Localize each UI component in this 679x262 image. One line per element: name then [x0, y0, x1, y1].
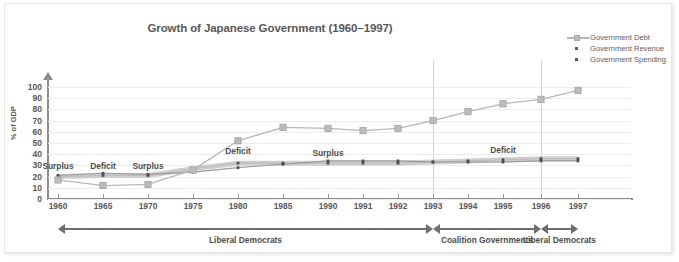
legend-item-label: Government Debt — [590, 32, 650, 43]
y-axis-tick-label: 50 — [20, 138, 42, 148]
era-bracket-left-arrow-icon — [58, 224, 65, 234]
data-point-marker — [147, 173, 150, 176]
legend-item-government-spending: Government Spending — [566, 54, 676, 65]
gridline — [48, 199, 631, 200]
chart-annotation-label: Surplus — [298, 148, 358, 158]
data-point-marker — [397, 160, 400, 163]
x-axis-tick-label: 1994 — [448, 201, 488, 211]
data-point-marker — [502, 161, 505, 164]
data-point-marker — [325, 125, 331, 131]
legend-item-label: Government Revenue — [590, 43, 664, 54]
dot-marker-icon — [566, 54, 590, 65]
x-axis-tick-label: 1997 — [558, 201, 598, 211]
data-point-marker — [432, 161, 435, 164]
x-axis-tick-label: 1980 — [218, 201, 258, 211]
data-point-marker — [100, 182, 106, 188]
x-axis-tick-label: 1992 — [378, 201, 418, 211]
era-bracket-bar — [64, 228, 427, 230]
legend-item-government-debt: Government Debt — [566, 32, 676, 43]
era-bracket-right-arrow-icon — [426, 224, 433, 234]
x-axis-tick — [363, 194, 364, 199]
era-bracket-bar — [547, 228, 572, 230]
data-point-marker — [237, 162, 240, 165]
x-axis-tick-label: 1960 — [38, 201, 78, 211]
chart-annotation-label: Surplus — [118, 161, 178, 171]
x-axis-tick — [193, 194, 194, 199]
data-point-marker — [395, 125, 401, 131]
x-axis-tick-label: 1985 — [263, 201, 303, 211]
data-point-marker — [55, 177, 61, 183]
era-bracket-label: Liberal Democrats — [166, 235, 326, 245]
y-axis-tick-label: 10 — [20, 183, 42, 193]
data-point-marker — [102, 172, 105, 175]
x-axis-tick — [433, 194, 434, 199]
data-point-marker — [577, 160, 580, 163]
y-axis-title: % of GDP — [9, 106, 18, 140]
x-axis-tick-label: 1993 — [413, 201, 453, 211]
line-square-marker-icon — [566, 32, 590, 43]
x-axis-tick — [503, 194, 504, 199]
chart-annotation-label: Deficit — [473, 145, 533, 155]
data-point-marker — [500, 101, 506, 107]
era-bracket-label: Liberal Democrats — [480, 235, 640, 245]
data-point-marker — [237, 166, 240, 169]
data-point-marker — [430, 118, 436, 124]
x-axis-tick — [238, 194, 239, 199]
data-point-marker — [145, 181, 151, 187]
x-axis-tick-label: 1965 — [83, 201, 123, 211]
y-axis-tick-label: 60 — [20, 127, 42, 137]
y-axis-tick-label: 20 — [20, 172, 42, 182]
data-point-marker — [280, 124, 286, 130]
x-axis-tick — [468, 194, 469, 199]
x-axis-tick — [398, 194, 399, 199]
era-bracket-right-arrow-icon — [534, 224, 541, 234]
x-axis-tick — [578, 194, 579, 199]
y-axis-tick-labels: 0102030405060708090100 — [18, 0, 42, 262]
x-axis-tick-label: 1991 — [343, 201, 383, 211]
x-axis-tick — [541, 194, 542, 199]
era-bracket-left-arrow-icon — [541, 224, 548, 234]
x-axis-tick — [328, 194, 329, 199]
data-point-marker — [190, 167, 196, 173]
data-point-marker — [282, 163, 285, 166]
chart-series-layer — [48, 87, 631, 199]
x-axis-tick-label: 1975 — [173, 201, 213, 211]
chart-title: Growth of Japanese Government (1960–1997… — [0, 22, 540, 34]
chart-plot-area — [48, 87, 631, 199]
era-bracket-bar — [439, 228, 535, 230]
dot-marker-icon — [566, 43, 590, 54]
x-axis-tick — [283, 194, 284, 199]
legend-item-government-revenue: Government Revenue — [566, 43, 676, 54]
y-axis-tick-label: 40 — [20, 149, 42, 159]
x-axis-tick — [148, 194, 149, 199]
data-point-marker — [540, 160, 543, 163]
x-axis-tick — [103, 194, 104, 199]
data-point-marker — [362, 160, 365, 163]
y-axis-tick-label: 80 — [20, 104, 42, 114]
data-point-marker — [360, 128, 366, 134]
x-axis-tick-label: 1990 — [308, 201, 348, 211]
data-point-marker — [235, 138, 241, 144]
data-point-marker — [327, 160, 330, 163]
data-point-marker — [575, 87, 581, 93]
y-axis-tick-label: 100 — [20, 82, 42, 92]
x-axis-tick — [58, 194, 59, 199]
era-bracket-right-arrow-icon — [571, 224, 578, 234]
legend-item-label: Government Spending — [590, 54, 666, 65]
y-axis-tick-label: 90 — [20, 93, 42, 103]
x-axis-tick-label: 1996 — [521, 201, 561, 211]
data-point-marker — [467, 161, 470, 164]
x-axis-tick-label: 1970 — [128, 201, 168, 211]
chart-legend: Government Debt Government Revenue Gover… — [566, 32, 676, 65]
y-axis-tick-label: 70 — [20, 116, 42, 126]
chart-annotation-label: Deficit — [208, 146, 268, 156]
data-point-marker — [465, 109, 471, 115]
data-point-marker — [538, 96, 544, 102]
era-bracket-left-arrow-icon — [433, 224, 440, 234]
x-axis-tick-label: 1995 — [483, 201, 523, 211]
